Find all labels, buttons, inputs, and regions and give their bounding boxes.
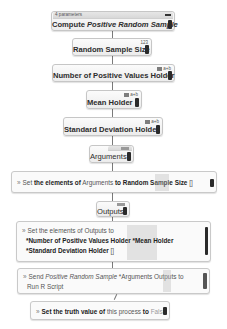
drag-handle[interactable] — [127, 152, 131, 161]
drag-handle[interactable] — [203, 273, 207, 289]
block-label: Random Sample Size — [73, 45, 142, 54]
drag-handle[interactable] — [163, 307, 167, 315]
connector — [112, 163, 113, 171]
item-standard-deviation-holder[interactable]: *Standard Deviation Holder — [26, 247, 109, 254]
drag-handle[interactable] — [168, 71, 172, 80]
list-icon — [121, 146, 130, 151]
connector — [114, 294, 117, 300]
bullet-icon: » — [22, 227, 26, 234]
connector — [112, 30, 113, 38]
drag-handle[interactable] — [205, 227, 208, 255]
connector — [112, 56, 113, 64]
arg-arguments[interactable]: *Arguments — [119, 273, 152, 280]
collapse-icon[interactable] — [165, 14, 171, 16]
block-arguments[interactable]: Arguments — [89, 145, 134, 163]
item-mean-holder[interactable]: *Mean Holder — [133, 237, 174, 244]
drag-handle[interactable] — [156, 125, 160, 134]
target-outputs[interactable]: Outputs — [84, 227, 106, 234]
statement-send[interactable]: »Send Positive Random Sample *Arguments … — [17, 268, 210, 294]
process-name: Positive Random Sample — [87, 20, 178, 29]
block-label: Standard Deviation Holder — [64, 125, 153, 134]
statement-set-outputs[interactable]: »Set the elements of Outputs to *Number … — [16, 221, 211, 262]
bullet-icon: » — [17, 179, 21, 186]
send-target-run-r-script[interactable]: Run R Script — [27, 283, 63, 290]
block-mean-holder[interactable]: a+b Mean Holder — [86, 90, 142, 109]
drop-highlight — [163, 270, 171, 292]
drag-handle[interactable] — [145, 45, 149, 54]
drag-handle[interactable] — [135, 98, 139, 107]
connector — [112, 82, 113, 90]
statement-set-arguments[interactable]: »Set the elements of Arguments to Random… — [11, 171, 217, 193]
variable-icon — [145, 120, 150, 124]
process-title: Compute Positive Random Sample — [52, 20, 165, 29]
statement-set-truth-value[interactable]: »Set the truth value of this process to … — [30, 301, 170, 320]
connector — [112, 193, 113, 201]
connector — [112, 109, 113, 117]
drag-handle[interactable] — [123, 207, 127, 215]
block-number-of-positive-values-holder[interactable]: a+b Number of Positive Values Holder — [52, 64, 175, 82]
target-arguments[interactable]: Arguments — [82, 179, 113, 186]
parameters-label: 4 parameters — [55, 12, 82, 17]
drag-handle[interactable] — [210, 179, 214, 187]
block-label: Outputs — [97, 207, 120, 216]
block-outputs[interactable]: Outputs — [96, 201, 130, 217]
block-standard-deviation-holder[interactable]: a+b Standard Deviation Holder — [63, 117, 163, 136]
item-number-of-positive-values-holder[interactable]: *Number of Positive Values Holder — [26, 237, 131, 244]
variable-badge: a+b — [145, 119, 159, 124]
drop-highlight — [155, 174, 169, 191]
process-block[interactable]: 4 parameters Compute Positive Random Sam… — [51, 11, 175, 31]
bullet-icon: » — [23, 273, 27, 280]
block-random-sample-size[interactable]: 123 Random Sample Size — [72, 38, 152, 56]
bullet-icon: » — [36, 308, 40, 315]
variable-icon — [124, 93, 129, 97]
block-label: Mean Holder — [87, 98, 132, 107]
block-label: Arguments — [90, 152, 124, 161]
connector — [112, 136, 113, 145]
block-label: Number of Positive Values Holder — [53, 71, 165, 80]
variable-badge: a+b — [124, 92, 138, 97]
process-reference[interactable]: Positive Random Sample — [45, 273, 117, 280]
drag-handle[interactable] — [168, 20, 172, 29]
